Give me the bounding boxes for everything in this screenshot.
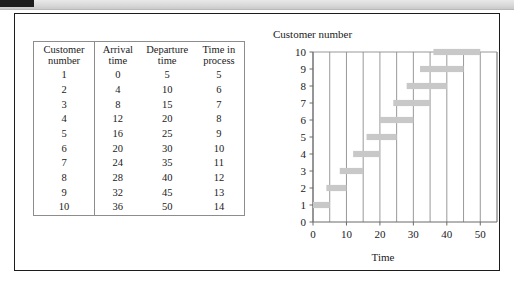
table-cell: 8 <box>194 112 244 127</box>
table-cell: 45 <box>141 186 194 201</box>
x-axis-label: Time <box>265 251 501 263</box>
gantt-bar-customer-8 <box>407 83 447 89</box>
top-band-mark <box>0 0 34 7</box>
gantt-bar-customer-2 <box>326 185 346 191</box>
table-cell: 40 <box>141 171 194 186</box>
table-cell: 10 <box>141 83 194 98</box>
table-cell: 5 <box>194 68 244 83</box>
y-tick-label: 0 <box>301 216 307 228</box>
table-cell: 0 <box>95 68 141 83</box>
table-cell: 20 <box>141 112 194 127</box>
column-header-time-in-process: Time in process <box>194 42 244 68</box>
table-cell: 7 <box>34 156 95 171</box>
gantt-chart: Customer number 01234567891001020304050 … <box>265 28 501 272</box>
column-header-departure-time: Departure time <box>141 42 194 68</box>
table-row: 38157 <box>34 98 244 113</box>
figure-frame: Customer number Arrival time Departure t… <box>14 13 500 271</box>
table-row: 516259 <box>34 127 244 142</box>
gantt-bar-customer-1 <box>313 202 330 208</box>
top-decorative-band <box>0 0 514 9</box>
gantt-bar-customer-9 <box>420 66 463 72</box>
x-tick-label: 10 <box>341 228 353 240</box>
y-tick-label: 3 <box>301 165 307 177</box>
table-cell: 13 <box>194 186 244 201</box>
gantt-bar-customer-5 <box>367 134 397 140</box>
table-cell: 4 <box>34 112 95 127</box>
table-header-row: Customer number Arrival time Departure t… <box>34 42 244 68</box>
y-tick-label: 1 <box>301 199 307 211</box>
table-cell: 6 <box>194 83 244 98</box>
table-cell: 7 <box>194 98 244 113</box>
gantt-bar-customer-4 <box>353 151 380 157</box>
table-cell: 20 <box>95 142 141 157</box>
table-cell: 2 <box>34 83 95 98</box>
table-row: 7243511 <box>34 156 244 171</box>
y-tick-label: 8 <box>301 80 307 92</box>
column-header-arrival-time: Arrival time <box>95 42 141 68</box>
x-tick-label: 40 <box>441 228 453 240</box>
table-cell: 5 <box>141 68 194 83</box>
table-cell: 10 <box>194 142 244 157</box>
top-band-rule <box>0 9 514 10</box>
y-tick-label: 4 <box>301 148 307 160</box>
x-tick-label: 30 <box>408 228 420 240</box>
table-cell: 3 <box>34 98 95 113</box>
x-tick-label: 50 <box>475 228 487 240</box>
x-tick-label: 20 <box>374 228 386 240</box>
table-cell: 6 <box>34 142 95 157</box>
gantt-bar-customer-3 <box>340 168 363 174</box>
table-body: 1055241063815741220851625962030107243511… <box>34 68 244 215</box>
x-tick-label: 0 <box>310 228 316 240</box>
chart-svg: 01234567891001020304050 <box>265 46 501 251</box>
table-cell: 11 <box>194 156 244 171</box>
table-row: 9324513 <box>34 186 244 201</box>
chart-plot-area: 01234567891001020304050 <box>265 46 501 255</box>
y-tick-label: 9 <box>301 63 307 75</box>
table-cell: 32 <box>95 186 141 201</box>
table-row: 24106 <box>34 83 244 98</box>
gantt-bar-customer-6 <box>380 117 413 123</box>
table: Customer number Arrival time Departure t… <box>34 42 244 215</box>
table-cell: 8 <box>34 171 95 186</box>
table-cell: 36 <box>95 200 141 215</box>
table-cell: 9 <box>34 186 95 201</box>
table-cell: 50 <box>141 200 194 215</box>
table-cell: 15 <box>141 98 194 113</box>
column-header-customer-number: Customer number <box>34 42 95 68</box>
y-tick-label: 5 <box>301 131 307 143</box>
table-row: 8284012 <box>34 171 244 186</box>
gantt-bar-customer-10 <box>433 49 480 55</box>
table-cell: 9 <box>194 127 244 142</box>
table-row: 6203010 <box>34 142 244 157</box>
table-cell: 4 <box>95 83 141 98</box>
y-tick-label: 2 <box>301 182 307 194</box>
table-cell: 35 <box>141 156 194 171</box>
table-cell: 12 <box>95 112 141 127</box>
y-tick-label: 10 <box>295 46 307 58</box>
gantt-bar-customer-7 <box>393 100 430 106</box>
table-row: 1055 <box>34 68 244 83</box>
table-cell: 10 <box>34 200 95 215</box>
table-row: 412208 <box>34 112 244 127</box>
customer-data-table: Customer number Arrival time Departure t… <box>33 41 245 216</box>
table-cell: 28 <box>95 171 141 186</box>
table-cell: 16 <box>95 127 141 142</box>
table-cell: 30 <box>141 142 194 157</box>
y-tick-label: 6 <box>301 114 307 126</box>
table-row: 10365014 <box>34 200 244 215</box>
table-cell: 1 <box>34 68 95 83</box>
table-cell: 14 <box>194 200 244 215</box>
table-cell: 8 <box>95 98 141 113</box>
chart-title: Customer number <box>273 28 352 40</box>
table-cell: 12 <box>194 171 244 186</box>
y-tick-label: 7 <box>301 97 307 109</box>
table-cell: 24 <box>95 156 141 171</box>
table-cell: 25 <box>141 127 194 142</box>
table-cell: 5 <box>34 127 95 142</box>
